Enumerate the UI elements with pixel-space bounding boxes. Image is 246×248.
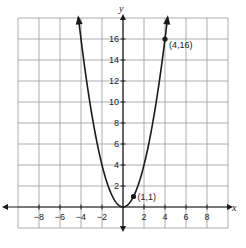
svg-text:−2: −2: [97, 212, 107, 222]
point-marker: [162, 36, 167, 41]
svg-text:−4: −4: [76, 212, 86, 222]
svg-text:4: 4: [162, 212, 167, 222]
svg-text:4: 4: [114, 160, 119, 170]
y-axis-arrow-icon: [120, 14, 126, 20]
curve-left-arrow-icon: [76, 15, 83, 24]
svg-text:10: 10: [109, 97, 119, 107]
curve-right-arrow-icon: [163, 15, 170, 24]
svg-text:14: 14: [109, 55, 119, 65]
svg-text:16: 16: [109, 34, 119, 44]
point-label: (4,16): [169, 40, 193, 50]
svg-text:2: 2: [141, 212, 146, 222]
svg-text:−8: −8: [34, 212, 44, 222]
parabola-chart: −8−6−4−22468246810121416 (1,1)(4,16) x y: [0, 0, 246, 248]
y-axis-label: y: [118, 3, 124, 14]
svg-text:12: 12: [109, 76, 119, 86]
y-axis-down-arrow-icon: [120, 226, 126, 232]
point-marker: [131, 194, 136, 199]
point-label: (1,1): [138, 192, 157, 202]
svg-text:8: 8: [204, 212, 209, 222]
svg-text:6: 6: [183, 212, 188, 222]
svg-text:8: 8: [114, 118, 119, 128]
svg-text:6: 6: [114, 139, 119, 149]
x-axis-label: x: [231, 202, 237, 213]
x-axis-left-arrow-icon: [2, 204, 8, 210]
svg-text:2: 2: [114, 181, 119, 191]
svg-text:−6: −6: [55, 212, 65, 222]
